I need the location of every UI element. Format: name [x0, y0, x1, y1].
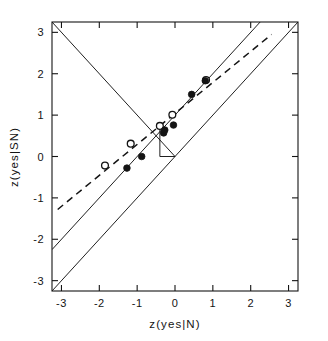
y-tick-label--2: -2: [33, 233, 44, 245]
x-tick-label-0: 0: [172, 297, 179, 309]
x-axis-title: z(yes|N): [149, 318, 200, 330]
dashed-fit-line: [58, 34, 272, 209]
x-axis-tick-labels: -3-2-10123: [56, 297, 292, 309]
data-point-filled: [161, 127, 168, 134]
data-point-open: [102, 162, 109, 169]
data-point-filled: [202, 77, 209, 84]
anti-diagonal-line: [52, 22, 175, 157]
y-tick-label-3: 3: [37, 26, 44, 38]
data-point-filled: [188, 91, 195, 98]
x-tick-label--2: -2: [94, 297, 105, 309]
data-point-open: [169, 111, 176, 118]
y-tick-label-1: 1: [37, 109, 44, 121]
figure-container: -3-2-10123 -3-2-10123 z(yes|N) z(yes|SN): [0, 0, 328, 341]
x-tick-label-1: 1: [210, 297, 217, 309]
data-point-filled: [124, 165, 131, 172]
y-tick-label-0: 0: [37, 151, 44, 163]
fit-lines-group: [58, 34, 272, 209]
x-tick-label-2: 2: [247, 297, 254, 309]
y-tick-label-2: 2: [37, 68, 44, 80]
reference-lines-group: [52, 22, 298, 291]
x-tick-label--1: -1: [132, 297, 143, 309]
y-tick-label--3: -3: [33, 275, 44, 287]
data-points-group: [102, 77, 210, 172]
data-point-open: [127, 140, 134, 147]
scatter-plot: -3-2-10123 -3-2-10123 z(yes|N) z(yes|SN): [0, 0, 328, 341]
x-tick-label--3: -3: [56, 297, 67, 309]
y-axis-tick-labels: -3-2-10123: [33, 26, 44, 286]
x-tick-label-3: 3: [285, 297, 292, 309]
y-tick-label--1: -1: [33, 192, 44, 204]
data-point-filled: [170, 122, 177, 129]
data-point-filled: [138, 153, 145, 160]
y-axis-title: z(yes|SN): [8, 127, 20, 187]
